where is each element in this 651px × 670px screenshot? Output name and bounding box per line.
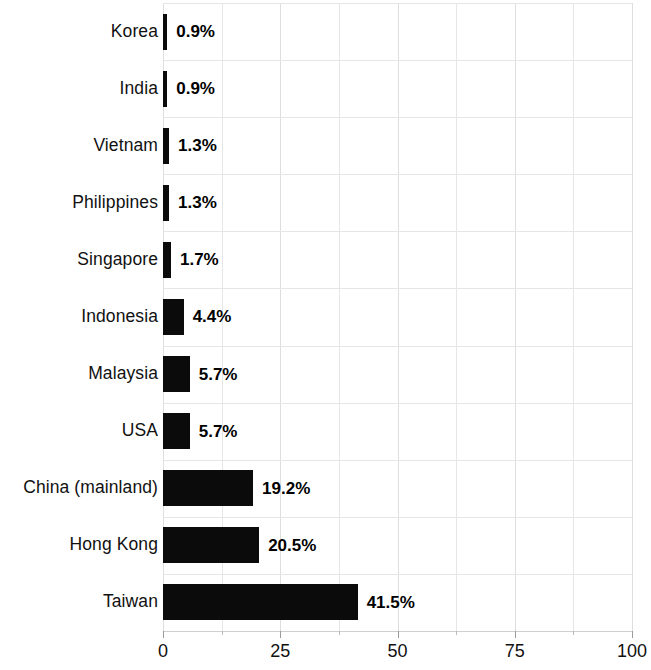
bar-group: 19.2% xyxy=(163,470,310,506)
bar-group: 20.5% xyxy=(163,527,316,563)
bar-value-label: 5.7% xyxy=(199,366,238,383)
x-axis-tick xyxy=(515,631,516,638)
bar-value-label: 0.9% xyxy=(176,80,215,97)
bar xyxy=(163,71,167,107)
bar-row: Malaysia5.7% xyxy=(0,346,651,403)
bar-group: 0.9% xyxy=(163,14,215,50)
bar-value-label: 4.4% xyxy=(193,308,232,325)
bar-value-label: 1.3% xyxy=(178,194,217,211)
category-label: Vietnam xyxy=(93,137,158,155)
bar-row: Hong Kong20.5% xyxy=(0,517,651,574)
x-axis-minor-tick xyxy=(339,631,340,635)
bar-group: 0.9% xyxy=(163,71,215,107)
bar xyxy=(163,185,169,221)
bar-value-label: 0.9% xyxy=(176,23,215,40)
category-label: Philippines xyxy=(72,194,158,212)
bar-value-label: 5.7% xyxy=(199,423,238,440)
category-label: Hong Kong xyxy=(70,537,158,555)
bar-value-label: 41.5% xyxy=(367,594,415,611)
bar xyxy=(163,470,253,506)
bar-row: Taiwan41.5% xyxy=(0,574,651,631)
bar-value-label: 1.7% xyxy=(180,251,219,268)
bar xyxy=(163,242,171,278)
category-label: Malaysia xyxy=(88,365,158,383)
x-axis-tick-label: 100 xyxy=(617,642,647,660)
bar-row: India0.9% xyxy=(0,60,651,117)
x-axis-tick-label: 25 xyxy=(270,642,290,660)
bar-row: USA5.7% xyxy=(0,403,651,460)
x-axis-minor-tick xyxy=(573,631,574,635)
bar-row: Singapore1.7% xyxy=(0,231,651,288)
bar-group: 5.7% xyxy=(163,413,237,449)
category-label: Singapore xyxy=(77,251,158,269)
bar-rows: Korea0.9%India0.9%Vietnam1.3%Philippines… xyxy=(0,3,651,631)
x-axis-tick-label: 50 xyxy=(387,642,407,660)
x-axis-tick xyxy=(163,631,164,638)
bar-group: 5.7% xyxy=(163,356,237,392)
bar-value-label: 20.5% xyxy=(268,537,316,554)
x-axis-tick-label: 75 xyxy=(505,642,525,660)
x-axis-tick-label: 0 xyxy=(158,642,168,660)
bar-row: Indonesia4.4% xyxy=(0,288,651,345)
bar xyxy=(163,584,358,620)
bar-row: Korea0.9% xyxy=(0,3,651,60)
x-axis-minor-tick xyxy=(456,631,457,635)
category-label: USA xyxy=(122,422,158,440)
category-label: China (mainland) xyxy=(23,480,158,498)
bar-row: Philippines1.3% xyxy=(0,174,651,231)
bar-value-label: 19.2% xyxy=(262,480,310,497)
bar-group: 1.7% xyxy=(163,242,219,278)
bar-group: 1.3% xyxy=(163,185,217,221)
bar xyxy=(163,356,190,392)
bar-group: 1.3% xyxy=(163,128,217,164)
bar xyxy=(163,14,167,50)
bar-chart: Korea0.9%India0.9%Vietnam1.3%Philippines… xyxy=(0,0,651,670)
bar xyxy=(163,527,259,563)
bar-group: 4.4% xyxy=(163,299,231,335)
bar-row: Vietnam1.3% xyxy=(0,117,651,174)
x-axis-tick xyxy=(398,631,399,638)
bar xyxy=(163,299,184,335)
category-label: Taiwan xyxy=(103,594,158,612)
category-label: Korea xyxy=(111,23,158,41)
bar-row: China (mainland)19.2% xyxy=(0,460,651,517)
x-axis: 0255075100 xyxy=(163,631,632,670)
bar-group: 41.5% xyxy=(163,584,415,620)
bar xyxy=(163,128,169,164)
category-label: Indonesia xyxy=(81,308,158,326)
x-axis-tick xyxy=(632,631,633,638)
category-label: India xyxy=(120,80,158,98)
bar-value-label: 1.3% xyxy=(178,137,217,154)
x-axis-tick xyxy=(280,631,281,638)
x-axis-minor-tick xyxy=(222,631,223,635)
bar xyxy=(163,413,190,449)
